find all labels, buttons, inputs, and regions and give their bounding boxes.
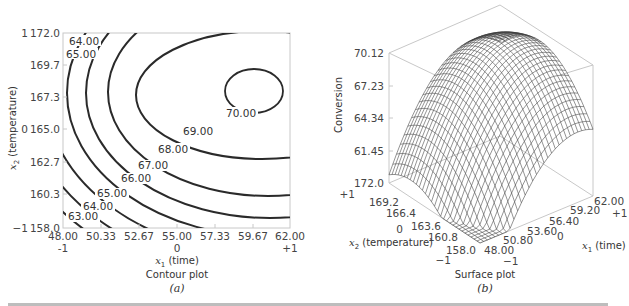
svg-text:165.0: 165.0: [30, 123, 60, 135]
svg-text:62.00: 62.00: [275, 230, 305, 242]
contour-69: [136, 31, 388, 159]
svg-text:52.67: 52.67: [124, 230, 154, 242]
contour-y-label: x2 (temperature): [7, 86, 21, 170]
contour-label-65: 65.00: [97, 187, 127, 199]
svg-text:162.7: 162.7: [30, 156, 60, 168]
contour-66: [67, 0, 477, 237]
svg-text:0: 0: [396, 223, 403, 235]
svg-text:0: 0: [557, 230, 564, 242]
contour-x-axis: [101, 224, 253, 228]
svg-text:70.12: 70.12: [354, 47, 384, 59]
svg-text:0: 0: [174, 242, 181, 254]
svg-text:1: 1: [21, 27, 28, 39]
svg-text:56.40: 56.40: [549, 215, 579, 227]
svg-text:167.3: 167.3: [30, 91, 60, 103]
mesh-line: [457, 46, 548, 158]
surface-box: [389, 5, 593, 243]
svg-text:172.0: 172.0: [354, 177, 384, 189]
svg-text:169.7: 169.7: [30, 59, 60, 71]
mesh-line: [453, 49, 544, 162]
surface-y-tick-labels: 172.0 169.2 166.4 163.6 160.8 158.0 +1 0…: [340, 177, 476, 266]
surface-plot: 70.12 67.23 64.34 61.45 Conversion 172.0…: [333, 5, 627, 295]
svg-text:166.4: 166.4: [386, 207, 416, 219]
svg-text:−1: −1: [436, 254, 451, 266]
svg-text:−1: −1: [503, 255, 518, 267]
contour-label-66: 66.00: [121, 172, 151, 184]
svg-text:59.67: 59.67: [238, 230, 268, 242]
svg-text:−1: −1: [13, 222, 28, 234]
contour-label-top-64: 64.00: [69, 35, 99, 47]
mesh-line: [419, 35, 532, 188]
svg-text:67.23: 67.23: [354, 80, 384, 92]
contour-panel-label: (a): [169, 282, 184, 295]
contour-label-63: 63.00: [68, 210, 98, 222]
svg-text:48.00: 48.00: [48, 230, 78, 242]
surface-y-label: x2 (temperature): [349, 237, 433, 251]
surface-title: Surface plot: [455, 269, 516, 280]
contour-x-label: x1 (time): [155, 255, 199, 269]
svg-text:160.3: 160.3: [30, 188, 60, 200]
svg-text:57.33: 57.33: [200, 230, 230, 242]
svg-text:+1: +1: [340, 188, 355, 200]
contour-title: Contour plot: [146, 269, 208, 280]
svg-text:64.34: 64.34: [354, 112, 384, 124]
svg-text:+1: +1: [282, 242, 297, 254]
svg-text:61.45: 61.45: [354, 145, 384, 157]
surface-z-label: Conversion: [333, 77, 344, 133]
svg-text:-1: -1: [58, 242, 68, 254]
surface-z-tick-labels: 70.12 67.23 64.34 61.45: [354, 47, 384, 157]
contour-x-tick-labels: 48.00 50.33 52.67 55.00 57.33 59.67 62.0…: [48, 230, 305, 254]
mesh-line: [465, 93, 578, 233]
contour-label-70: 70.00: [226, 107, 256, 119]
surface-panel-label: (b): [477, 282, 493, 295]
svg-text:+1: +1: [612, 207, 627, 219]
svg-text:50.33: 50.33: [86, 230, 116, 242]
figure: 70.00 69.00 68.00 67.00 66.00 65.00 64.0…: [0, 0, 629, 306]
surface-z-ticks: [389, 86, 393, 151]
contour-label-67: 67.00: [138, 159, 168, 171]
contour-y-tick-labels: 172.0 169.7 167.3 165.0 162.7 160.3 158.…: [13, 27, 60, 234]
mesh-line: [434, 74, 525, 195]
mesh-line: [483, 32, 574, 134]
mesh-line: [456, 75, 569, 227]
mesh-line: [461, 43, 552, 154]
svg-text:172.0: 172.0: [30, 27, 60, 39]
svg-text:0: 0: [21, 123, 28, 135]
contour-label-68: 68.00: [158, 143, 188, 155]
svg-text:62.00: 62.00: [594, 195, 624, 207]
mesh-line: [472, 36, 563, 142]
svg-text:55.00: 55.00: [162, 230, 192, 242]
contour-label-69: 69.00: [183, 125, 213, 137]
surface-mesh: [389, 32, 593, 243]
contour-label-top-65: 65.00: [66, 48, 96, 60]
surface-x-label: x1 (time): [582, 240, 626, 254]
